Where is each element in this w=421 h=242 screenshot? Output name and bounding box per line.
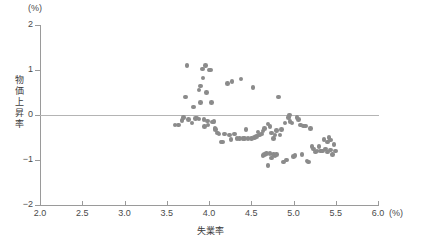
y-axis-unit-label: (%) [28,3,42,13]
data-point [279,127,284,132]
data-point [268,124,273,129]
data-point [203,63,208,68]
data-point [183,95,188,100]
x-tick-label: 3.5 [152,208,182,218]
data-point [212,119,217,124]
x-tick-label: 2.5 [67,208,97,218]
plot-area [40,25,378,205]
x-tick-label: 3.0 [110,208,140,218]
y-tick-label: −1 [9,154,33,164]
data-point [208,68,213,73]
data-point [181,115,186,120]
data-point [191,105,196,110]
data-point [176,123,181,128]
data-point [190,121,195,126]
x-tick-mark [378,201,379,206]
x-tick-label: 5.0 [279,208,309,218]
data-point [262,126,267,131]
data-point [227,133,232,138]
data-point [306,160,311,165]
data-point [274,152,279,157]
data-point [296,117,301,122]
data-point [290,121,295,126]
data-point [266,163,271,168]
x-tick-label: 5.5 [321,208,351,218]
y-tick-label: 1 [9,64,33,74]
data-point [293,153,298,158]
y-tick-label: 0 [9,109,33,119]
data-point [198,84,203,89]
data-point [273,133,278,138]
data-point [198,100,203,105]
data-point [276,95,281,100]
data-point [300,152,305,157]
data-point [332,142,337,147]
data-point [197,117,202,122]
data-point [204,90,209,95]
data-point [220,140,225,145]
y-tick-label: 2 [9,19,33,29]
data-point [274,128,279,133]
data-point [201,76,206,81]
data-point [287,113,292,118]
x-tick-label: 2.0 [25,208,55,218]
data-point [229,137,234,142]
y-axis-title: 物価上昇率 [13,75,25,130]
data-point [222,132,227,137]
data-point [217,132,222,137]
data-point [333,149,338,154]
data-point [284,158,289,163]
data-point [209,100,214,105]
data-point [308,126,313,131]
x-tick-label: 4.0 [194,208,224,218]
data-point [185,63,190,68]
x-tick-label: 4.5 [236,208,266,218]
data-point [278,133,283,138]
data-point [197,88,202,93]
data-point [283,121,288,126]
scatter-chart: (%) (%) 物価上昇率 失業率 210−1−2 2.02.53.03.54.… [0,0,421,242]
data-point [303,124,308,129]
data-point [239,77,244,82]
x-axis-title: 失業率 [0,224,421,237]
data-point [230,79,235,84]
x-tick-label: 6.0 [363,208,393,218]
data-point [244,127,249,132]
data-point [251,85,256,90]
